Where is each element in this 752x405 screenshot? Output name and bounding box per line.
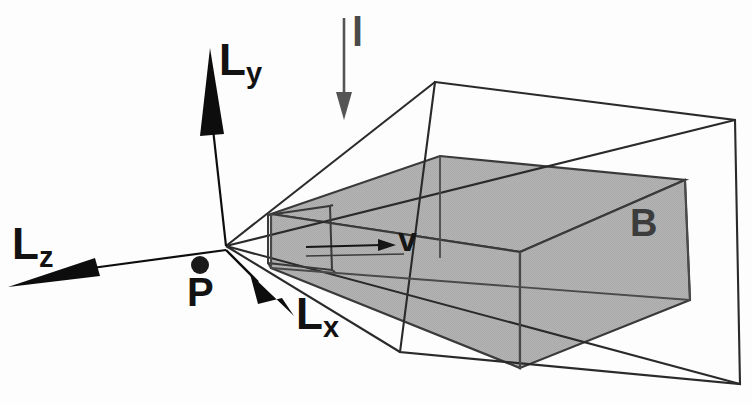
eye-point-label: P [187, 272, 214, 312]
axis-x-label: Lx [296, 292, 339, 342]
axis-x-label-base: L [296, 289, 323, 338]
axis-y-label-base: L [219, 35, 246, 84]
axis-z-label-sub: z [39, 241, 54, 273]
axis-x-label-sub: x [323, 311, 339, 343]
axis-y-label-sub: y [246, 57, 262, 89]
axis-z-label: Lz [12, 222, 53, 272]
light-direction-label: l [352, 12, 363, 52]
figure-canvas: Ly Lz Lx P l B v [0, 0, 752, 405]
body-label: B [630, 204, 657, 242]
view-vector-label: v [398, 222, 417, 256]
light-direction-arrow [336, 18, 352, 120]
axis-y-label: Ly [219, 38, 262, 88]
axis-z-label-base: L [12, 219, 39, 268]
